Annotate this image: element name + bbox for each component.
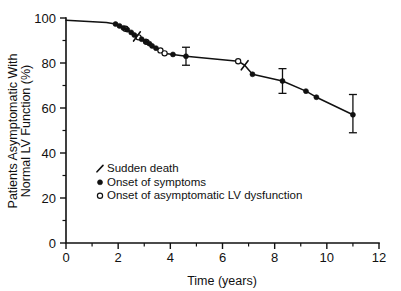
y-axis-title-line2: Normal LV Function (%) xyxy=(19,65,33,197)
x-tick-label: 12 xyxy=(372,250,386,265)
x-tick-label: 4 xyxy=(167,250,174,265)
x-tick-label: 10 xyxy=(320,250,334,265)
legend-label: Onset of symptoms xyxy=(107,176,206,188)
y-tick-label: 60 xyxy=(42,101,56,116)
survival-curve-line xyxy=(66,20,353,115)
marker-onset-symptoms xyxy=(314,95,319,100)
legend-label: Onset of asymptomatic LV dysfunction xyxy=(107,189,302,201)
marker-onset-symptoms xyxy=(183,54,188,59)
marker-onset-lv-dysfunction xyxy=(236,59,241,64)
survival-curve-chart: 024681012 020406080100 Time (years) Pati… xyxy=(0,0,401,291)
legend-item: Onset of asymptomatic LV dysfunction xyxy=(97,189,302,201)
x-tick-label: 6 xyxy=(219,250,226,265)
sudden-death-markers-group xyxy=(134,32,249,70)
y-axis-ticks xyxy=(60,18,66,243)
y-tick-label: 80 xyxy=(42,56,56,71)
marker-onset-symptoms xyxy=(170,52,175,57)
y-tick-label: 40 xyxy=(42,146,56,161)
y-axis-title-group: Patients Asymptomatic With Normal LV Fun… xyxy=(6,53,33,208)
marker-onset-symptoms xyxy=(303,89,308,94)
y-tick-label: 0 xyxy=(49,236,56,251)
y-axis-tick-labels: 020406080100 xyxy=(34,11,56,251)
x-axis-title-group: Time (years) xyxy=(187,274,257,288)
x-axis-tick-labels: 024681012 xyxy=(62,250,386,265)
x-axis-ticks xyxy=(66,243,379,249)
legend-sudden-death-icon xyxy=(97,165,103,171)
marker-onset-symptoms xyxy=(153,46,158,51)
data-curve-group xyxy=(66,20,353,115)
y-tick-label: 20 xyxy=(42,191,56,206)
marker-onset-symptoms xyxy=(350,112,355,117)
chart-figure: 024681012 020406080100 Time (years) Pati… xyxy=(0,0,401,291)
legend-label: Sudden death xyxy=(107,162,179,174)
legend-item: Sudden death xyxy=(97,162,179,174)
y-tick-label: 100 xyxy=(34,11,56,26)
x-tick-label: 0 xyxy=(62,250,69,265)
marker-onset-lv-dysfunction xyxy=(162,51,167,56)
filled-circle-markers-group xyxy=(113,22,355,118)
x-tick-label: 2 xyxy=(115,250,122,265)
marker-onset-symptoms xyxy=(280,79,285,84)
axes-group xyxy=(66,18,379,243)
chart-legend: Sudden deathOnset of symptomsOnset of as… xyxy=(97,162,302,201)
x-axis-title: Time (years) xyxy=(187,274,257,288)
axis-lines xyxy=(66,18,379,243)
error-bars-group xyxy=(182,47,357,133)
x-tick-label: 8 xyxy=(271,250,278,265)
legend-open-circle-icon xyxy=(97,193,102,198)
legend-item: Onset of symptoms xyxy=(98,176,207,188)
legend-filled-circle-icon xyxy=(98,180,103,185)
marker-onset-symptoms xyxy=(250,72,255,77)
y-axis-title-line1: Patients Asymptomatic With xyxy=(6,53,20,208)
